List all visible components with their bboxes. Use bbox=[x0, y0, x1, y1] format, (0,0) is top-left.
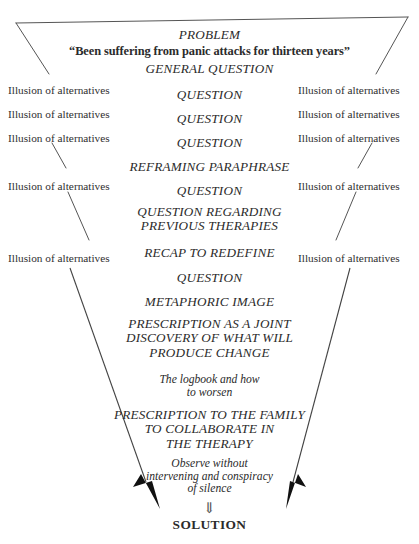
funnel-step: REFRAMING PARAPHRASE bbox=[95, 160, 324, 174]
funnel-step: QUESTION REGARDING PREVIOUS THERAPIES bbox=[95, 205, 324, 234]
illusion-of-alternatives-label: Illusion of alternatives bbox=[298, 108, 400, 120]
illusion-of-alternatives-label: Illusion of alternatives bbox=[298, 132, 400, 144]
funnel-step: QUESTION bbox=[95, 271, 324, 285]
illusion-of-alternatives-label: Illusion of alternatives bbox=[8, 252, 110, 264]
funnel-step: QUESTION bbox=[95, 88, 324, 102]
funnel-step: Observe without intervening and conspira… bbox=[69, 458, 350, 496]
illusion-of-alternatives-label: Illusion of alternatives bbox=[298, 84, 400, 96]
funnel-step: QUESTION bbox=[95, 136, 324, 150]
funnel-step: SOLUTION bbox=[95, 518, 324, 532]
illusion-of-alternatives-label: Illusion of alternatives bbox=[298, 180, 400, 192]
funnel-step: The logbook and how to worsen bbox=[95, 374, 324, 399]
funnel-step: PROBLEM bbox=[95, 28, 324, 42]
funnel-step: PRESCRIPTION AS A JOINT DISCOVERY OF WHA… bbox=[95, 317, 324, 360]
funnel-step: METAPHORIC IMAGE bbox=[95, 295, 324, 309]
illusion-of-alternatives-label: Illusion of alternatives bbox=[8, 132, 110, 144]
funnel-step: GENERAL QUESTION bbox=[95, 62, 324, 76]
illusion-of-alternatives-label: Illusion of alternatives bbox=[8, 108, 110, 120]
illusion-of-alternatives-label: Illusion of alternatives bbox=[298, 252, 400, 264]
illusion-of-alternatives-label: Illusion of alternatives bbox=[8, 180, 110, 192]
funnel-step: PRESCRIPTION TO THE FAMILY TO COLLABORAT… bbox=[69, 408, 350, 451]
funnel-step: ⇓ bbox=[95, 500, 324, 516]
illusion-of-alternatives-label: Illusion of alternatives bbox=[8, 84, 110, 96]
funnel-step: QUESTION bbox=[95, 184, 324, 198]
diagram-content: PROBLEM“Been suffering from panic attack… bbox=[0, 0, 419, 544]
funnel-step: “Been suffering from panic attacks for t… bbox=[69, 45, 350, 58]
funnel-step: RECAP TO REDEFINE bbox=[95, 246, 324, 260]
funnel-step: QUESTION bbox=[95, 112, 324, 126]
